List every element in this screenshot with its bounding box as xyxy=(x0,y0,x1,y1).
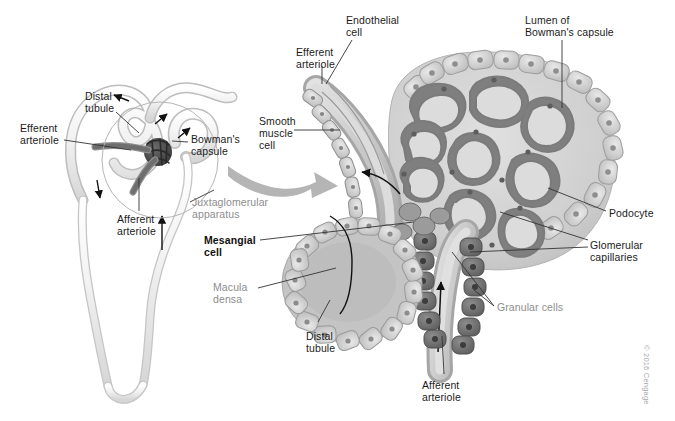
label-podocyte: Podocyte xyxy=(609,207,654,219)
label-distal-tubule: Distal tubule xyxy=(85,90,114,114)
label-smooth-muscle-cell: Smooth muscle cell xyxy=(259,115,296,152)
label-efferent-arteriole-detail: Efferent arteriole xyxy=(296,46,335,70)
label-distal-tubule-detail: Distal tubule xyxy=(306,330,335,354)
glomerulus-detail-art xyxy=(258,40,625,374)
label-glomerular-capillaries: Glomerular capillaries xyxy=(590,239,643,263)
figure-juxtaglomerular-apparatus: Distal tubule Efferent arteriole Bowman'… xyxy=(0,0,675,421)
label-bowmans-capsule: Bowman's capsule xyxy=(191,133,240,157)
label-juxtaglomerular-apparatus: Juxtaglomerular apparatus xyxy=(192,196,268,220)
label-macula-densa: Macula densa xyxy=(213,281,247,305)
transition-arrow xyxy=(228,166,338,198)
label-endothelial-cell: Endothelial cell xyxy=(346,14,399,38)
label-efferent-arteriole: Efferent arteriole xyxy=(20,122,59,146)
anatomical-illustration xyxy=(0,0,675,421)
label-lumen-of-bowmans-capsule: Lumen of Bowman's capsule xyxy=(525,14,614,38)
label-afferent-arteriole-detail: Afferent arteriole xyxy=(422,379,461,403)
copyright-notice: © 2016 Cengage xyxy=(642,345,651,405)
label-granular-cells: Granular cells xyxy=(497,301,563,313)
label-mesangial-cell: Mesangial cell xyxy=(204,234,256,258)
label-afferent-arteriole: Afferent arteriole xyxy=(117,213,156,237)
